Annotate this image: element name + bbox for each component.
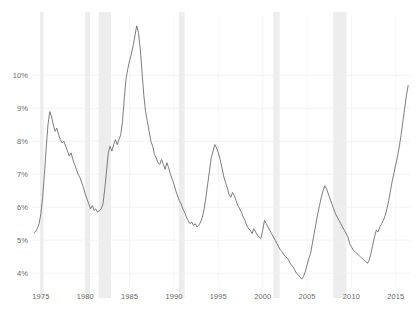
y-axis-tick-label: 10%: [2, 71, 28, 80]
x-axis-tick-label: 1985: [115, 292, 145, 301]
recession-band: [273, 12, 279, 298]
chart-plot-area: [0, 0, 416, 326]
x-axis-tick-label: 2005: [292, 292, 322, 301]
recession-bands-group: [40, 12, 347, 298]
y-axis-tick-label: 4%: [2, 269, 28, 278]
y-axis-tick-label: 6%: [2, 203, 28, 212]
recession-band: [179, 12, 185, 298]
y-axis-tick-label: 9%: [2, 104, 28, 113]
x-axis-tick-label: 1980: [70, 292, 100, 301]
recession-band: [99, 12, 111, 298]
recession-band: [333, 12, 346, 298]
y-axis-tick-label: 5%: [2, 236, 28, 245]
x-axis-tick-label: 1975: [26, 292, 56, 301]
x-axis-tick-label: 2000: [248, 292, 278, 301]
y-axis-tick-label: 8%: [2, 137, 28, 146]
x-axis-tick-label: 1990: [159, 292, 189, 301]
y-axis-tick-label: 7%: [2, 170, 28, 179]
recession-band: [85, 12, 90, 298]
mortgage-rate-chart: 4%5%6%7%8%9%10% 197519801985199019952000…: [0, 0, 416, 326]
x-axis-tick-label: 1995: [203, 292, 233, 301]
x-axis-tick-label: 2015: [381, 292, 411, 301]
x-axis-tick-label: 2010: [336, 292, 366, 301]
